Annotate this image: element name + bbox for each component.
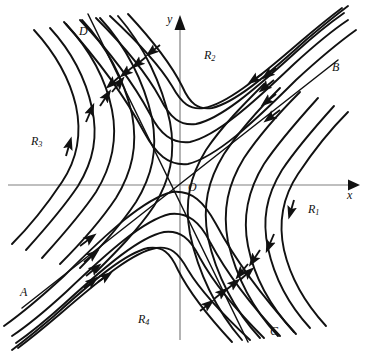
region-label-r2-sub: 2 xyxy=(211,54,215,63)
y-axis-label: y xyxy=(167,12,172,27)
region-label-r2: R2 xyxy=(204,48,215,63)
region-label-r4: R4 xyxy=(138,312,149,327)
r1-branch-1 xyxy=(281,112,348,326)
r1-arrow-1 xyxy=(290,200,294,214)
point-label-d: D xyxy=(79,24,88,39)
point-label-a: A xyxy=(20,285,27,300)
r1-arrow-2 xyxy=(268,234,274,248)
r3-arrow-1 xyxy=(66,142,70,156)
r1-arrow-3 xyxy=(252,250,260,262)
trajectories-r2 xyxy=(64,6,356,164)
region-label-r3-sub: 3 xyxy=(38,140,42,149)
region-label-r4-sub: 4 xyxy=(145,318,149,327)
phase-portrait-canvas xyxy=(0,0,373,356)
region-label-r3: R3 xyxy=(31,134,42,149)
origin-label: O xyxy=(188,180,197,195)
x-axis-label: x xyxy=(347,188,352,203)
trajectories-r4 xyxy=(4,192,296,350)
r3-arrow-2 xyxy=(86,108,92,122)
r2-arrow-left-2 xyxy=(124,66,134,74)
r3-arrow-3 xyxy=(100,94,108,106)
axes-group xyxy=(8,15,360,340)
r4-arrow-right-3 xyxy=(214,291,224,299)
phase-portrait-figure: y x O R1 R2 R3 R4 A B C D xyxy=(0,0,373,356)
point-label-c: C xyxy=(270,324,278,339)
r3-branch-1 xyxy=(12,30,79,244)
region-label-r1-sub: 1 xyxy=(315,208,319,217)
r4-arrow-right-2 xyxy=(226,282,236,290)
y-axis-arrowhead-icon xyxy=(175,15,186,30)
point-label-b: B xyxy=(332,60,339,75)
region-label-r1: R1 xyxy=(308,202,319,217)
r2-arrow-left-3 xyxy=(136,57,146,65)
